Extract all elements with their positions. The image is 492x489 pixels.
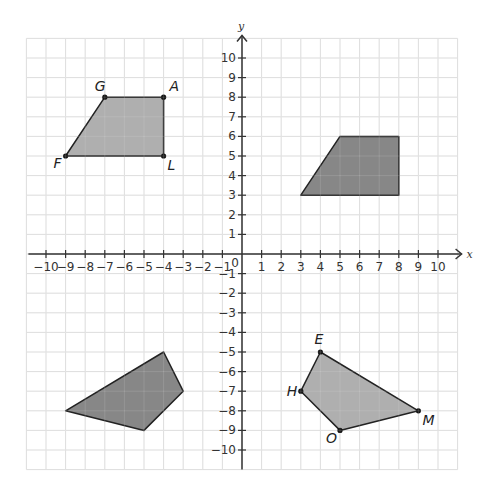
y-tick-label: −7 [218, 384, 236, 398]
vertex-label-A: A [169, 78, 180, 94]
y-tick-label: 8 [228, 90, 236, 104]
x-tick-label: 10 [430, 260, 445, 274]
x-tick-label: −4 [155, 260, 173, 274]
vertex-label-G: G [95, 78, 106, 94]
shape-FGAL [66, 97, 164, 156]
vertex-label-L: L [168, 157, 176, 173]
y-tick-label: 5 [228, 149, 236, 163]
y-tick-label: −8 [218, 404, 236, 418]
vertex-label-H: H [287, 383, 298, 399]
x-tick-label: −3 [174, 260, 192, 274]
vertex-label-F: F [54, 155, 63, 171]
x-tick-label: 4 [317, 260, 325, 274]
x-tick-label: 3 [297, 260, 305, 274]
x-tick-label: 6 [356, 260, 364, 274]
y-tick-label: 9 [228, 71, 236, 85]
y-tick-label: 7 [228, 110, 236, 124]
origin-label: 0 [231, 256, 239, 270]
x-tick-label: 8 [395, 260, 403, 274]
y-tick-label: −4 [218, 325, 236, 339]
vertex-label-O: O [326, 430, 337, 446]
x-tick-label: −7 [96, 260, 114, 274]
y-tick-label: −9 [218, 423, 236, 437]
x-tick-label: 7 [375, 260, 383, 274]
x-tick-label: −9 [57, 260, 75, 274]
x-axis-label: x [467, 248, 474, 261]
x-tick-label: −2 [194, 260, 212, 274]
x-tick-label: −5 [135, 260, 153, 274]
y-axis-label: y [237, 20, 245, 33]
y-tick-label: −10 [211, 443, 236, 457]
y-tick-label: 4 [228, 169, 236, 183]
x-tick-label: 2 [277, 260, 285, 274]
shape-quadrant-I-image [301, 136, 399, 195]
x-tick-label: 5 [336, 260, 344, 274]
y-tick-label: 10 [221, 51, 236, 65]
x-tick-label: 9 [415, 260, 423, 274]
y-tick-label: 2 [228, 208, 236, 222]
x-tick-label: −8 [76, 260, 94, 274]
vertex-label-E: E [314, 331, 323, 347]
x-tick-label: −10 [33, 260, 58, 274]
y-tick-label: −2 [218, 286, 236, 300]
y-tick-label: −6 [218, 365, 236, 379]
y-tick-label: 1 [228, 227, 236, 241]
x-tick-label: −6 [116, 260, 134, 274]
y-tick-label: −5 [218, 345, 236, 359]
vertex-label-M: M [422, 412, 434, 428]
y-tick-label: −3 [218, 306, 236, 320]
coordinate-plane: −10−9−8−7−6−5−4−3−2−11234567891010987654… [0, 0, 492, 489]
y-tick-label: 6 [228, 129, 236, 143]
x-tick-label: 1 [258, 260, 266, 274]
y-tick-label: 3 [228, 188, 236, 202]
